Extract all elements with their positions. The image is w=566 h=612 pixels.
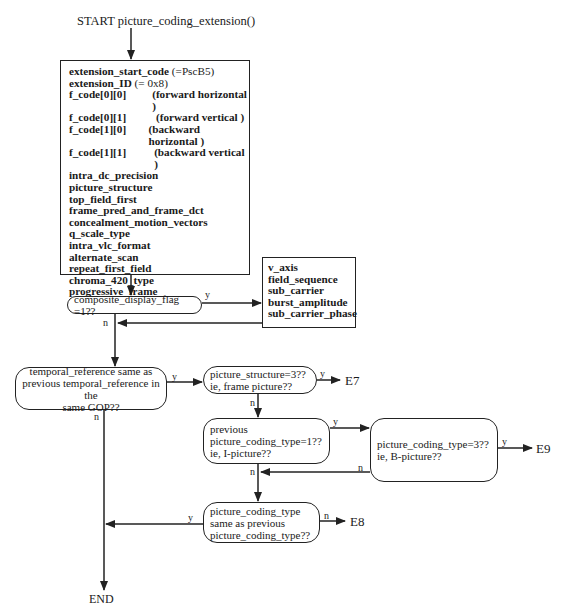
branch-label-yes: y (320, 369, 325, 379)
picture-coding-extension-fields-box: extension_start_code (=PscB5) extension_… (60, 60, 250, 275)
decision-same-picture-coding-type: picture_coding_type same as previous pic… (203, 502, 320, 543)
field-extension-start-code-value: (=PscB5) (172, 66, 214, 78)
field-extension-start-code: extension_start_code (69, 66, 169, 78)
branch-label-no: n (103, 318, 108, 328)
decision-previous-picture-coding-type: previous picture_coding_type=1?? ie, I-p… (203, 418, 330, 464)
field-f-code-00-desc: (forward horizontal ) (152, 89, 249, 112)
decision-b-picture: picture_coding_type=3?? ie, B-picture?? (370, 418, 498, 482)
field-sub-carrier-phase: sub_carrier_phase (268, 308, 355, 320)
branch-label-yes: y (172, 372, 177, 382)
branch-label-no: n (250, 398, 255, 408)
decision-temporal-line-2: previous temporal_reference in the (19, 377, 163, 401)
decision-temporal-line-3: same GOP?? (62, 401, 119, 413)
exit-e8: E8 (350, 515, 364, 528)
decision-prev-line-2: picture_coding_type=1?? (210, 435, 323, 447)
field-f-code-10-desc: (backward horizontal ) (148, 124, 249, 147)
decision-composite-display-flag: composite_display_flag =1?? (67, 296, 202, 314)
field-frame-pred-and-frame-dct: frame_pred_and_frame_dct (69, 205, 249, 217)
decision-b-line-1: picture_coding_type=3?? (377, 438, 491, 450)
branch-label-yes: y (502, 437, 507, 447)
decision-same-line-2: same as previous (210, 517, 313, 529)
branch-label-no: n (94, 412, 99, 422)
field-repeat-first-field: repeat_first_field (69, 263, 249, 275)
field-f-code-10: f_code[1][0] (69, 124, 148, 147)
decision-picture-structure: picture_structure=3?? ie, frame picture?… (203, 366, 317, 394)
branch-label-no: n (358, 463, 363, 473)
field-f-code-11: f_code[1][1] (69, 147, 154, 170)
decision-prev-line-1: previous (210, 423, 323, 435)
exit-e9: E9 (536, 442, 550, 455)
branch-label-no: n (250, 467, 255, 477)
field-f-code-11-desc: (backward vertical ) (154, 147, 249, 170)
decision-structure-line-1: picture_structure=3?? (210, 368, 310, 380)
decision-composite-text: composite_display_flag =1?? (74, 293, 195, 317)
field-v-axis: v_axis (268, 262, 355, 274)
branch-label-yes: y (333, 417, 338, 427)
decision-temporal-line-1: temporal_reference same as (30, 365, 153, 377)
branch-label-yes: y (205, 290, 210, 300)
branch-label-no: n (324, 511, 329, 521)
start-terminal: START picture_coding_extension() (77, 15, 255, 28)
composite-fields-box: v_axis field_sequence sub_carrier burst_… (262, 257, 356, 328)
decision-temporal-reference: temporal_reference same as previous temp… (15, 367, 167, 410)
branch-label-yes: y (188, 513, 193, 523)
decision-same-line-1: picture_coding_type (210, 505, 313, 517)
field-picture-structure: picture_structure (69, 182, 249, 194)
field-f-code-00: f_code[0][0] (69, 89, 152, 112)
decision-structure-line-2: ie, frame picture?? (210, 380, 310, 392)
decision-prev-line-3: ie, I-picture?? (210, 447, 323, 459)
decision-b-line-2: ie, B-picture?? (377, 450, 491, 462)
exit-e7: E7 (345, 374, 359, 387)
decision-same-line-3: picture_coding_type?? (210, 529, 313, 541)
field-intra-vlc-format: intra_vlc_format (69, 240, 249, 252)
end-terminal: END (89, 593, 114, 605)
